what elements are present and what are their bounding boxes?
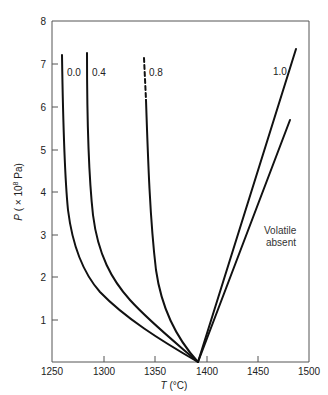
y-tick-3: 3 <box>40 230 46 241</box>
y-axis-ticks <box>52 64 58 320</box>
annotation-absent: absent <box>266 237 296 248</box>
x-tick-1350: 1350 <box>144 366 167 377</box>
label-0.8: 0.8 <box>149 67 163 78</box>
x-axis-tick-labels: 1250 1300 1350 1400 1450 1500 <box>41 366 321 377</box>
x-tick-1300: 1300 <box>93 366 116 377</box>
label-0.4: 0.4 <box>92 67 106 78</box>
x-tick-1500: 1500 <box>298 366 321 377</box>
curves <box>62 49 296 362</box>
phase-diagram-chart: 1 2 3 4 5 6 7 8 1250 1300 1350 1400 1450… <box>0 0 328 395</box>
curve-0.8-dashed <box>144 58 146 100</box>
y-tick-4: 4 <box>40 187 46 198</box>
annotation-volatile: Volatile <box>264 225 297 236</box>
x-axis-ticks <box>104 356 258 362</box>
y-axis-label: P ( × 108 Pa) <box>12 163 24 221</box>
y-tick-8: 8 <box>40 16 46 27</box>
label-1.0: 1.0 <box>273 66 287 77</box>
x-tick-1400: 1400 <box>196 366 219 377</box>
curve-1.0 <box>198 49 296 362</box>
y-tick-2: 2 <box>40 272 46 283</box>
y-tick-6: 6 <box>40 102 46 113</box>
x-tick-1450: 1450 <box>247 366 270 377</box>
x-axis-label: T (°C) <box>161 380 188 391</box>
y-tick-1: 1 <box>40 315 46 326</box>
label-0.0: 0.0 <box>67 67 81 78</box>
x-tick-1250: 1250 <box>41 366 64 377</box>
y-tick-5: 5 <box>40 145 46 156</box>
y-tick-7: 7 <box>40 59 46 70</box>
curve-0.0 <box>62 55 198 362</box>
y-axis-tick-labels: 1 2 3 4 5 6 7 8 <box>40 16 46 326</box>
curve-0.4 <box>87 53 198 362</box>
